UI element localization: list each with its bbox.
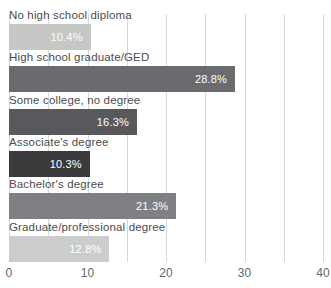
x-axis: 010203040 [0, 0, 331, 288]
bar-chart: No high school diploma10.4%High school g… [0, 0, 331, 288]
x-axis-tick-label: 10 [81, 266, 95, 280]
x-axis-tick-label: 30 [238, 266, 252, 280]
x-axis-tick-label: 0 [6, 266, 13, 280]
x-axis-tick-label: 40 [316, 266, 330, 280]
x-axis-tick-label: 20 [159, 266, 173, 280]
